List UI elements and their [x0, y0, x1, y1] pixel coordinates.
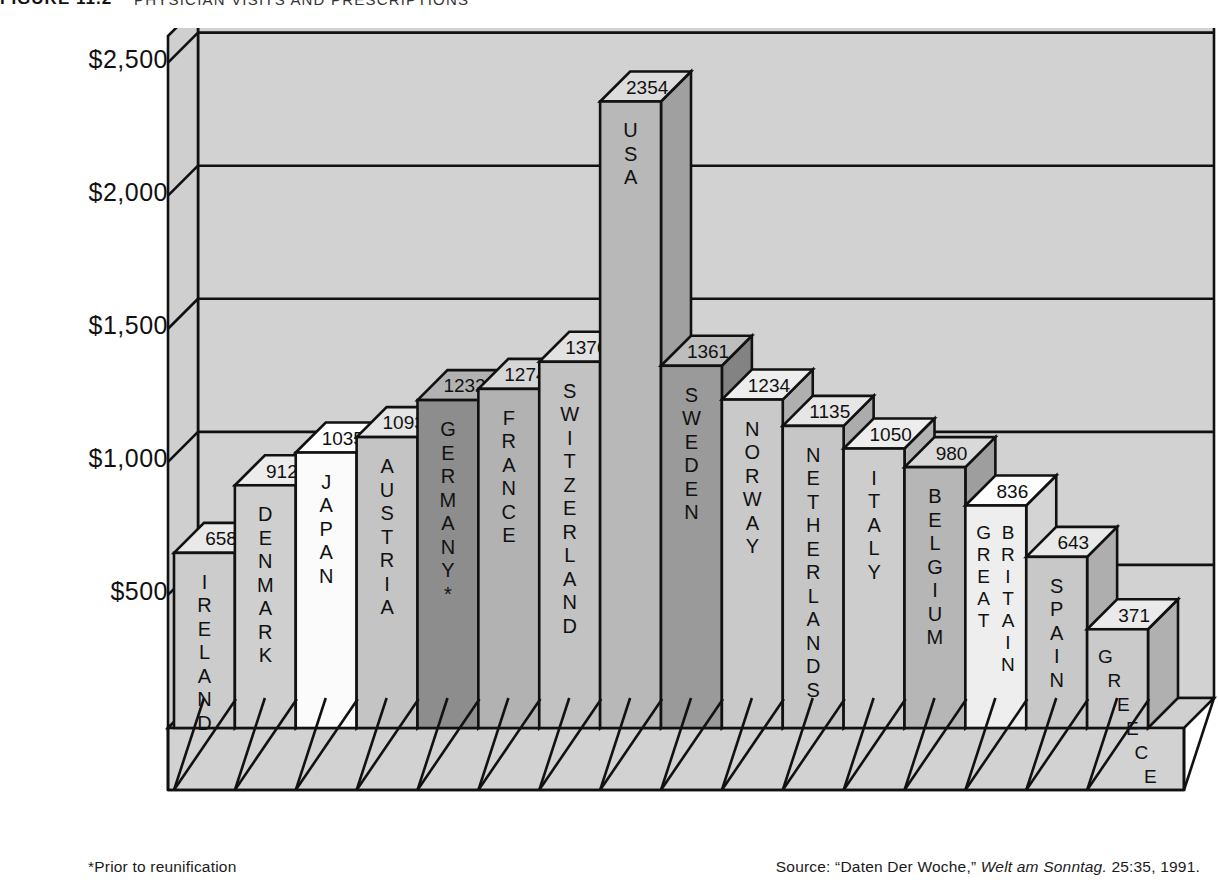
bar-category-letter: N: [1001, 654, 1015, 675]
bar-category-letter: P: [320, 518, 333, 540]
bar-category-letter: A: [1050, 622, 1064, 644]
bar-category-letter: A: [977, 588, 990, 609]
bar-category-letter: A: [1002, 610, 1015, 631]
bar-value-label: 836: [997, 481, 1029, 502]
bar-category-letter: E: [1144, 766, 1157, 787]
bar-category-letter: E: [441, 442, 454, 464]
page-title: PHYSICIAN VISITS AND PRESCRIPTIONS: [134, 0, 469, 8]
bar-category-letter: *: [444, 583, 452, 605]
bar-category-letter: R: [745, 465, 759, 487]
bar-category-letter: J: [321, 471, 331, 493]
bar-category-letter: D: [806, 655, 820, 677]
bar-category-letter: W: [682, 407, 701, 429]
bar-category-letter: E: [685, 431, 698, 453]
bar-category-letter: A: [807, 608, 821, 630]
bar-category-letter: B: [1002, 522, 1015, 543]
bar-category-letter: A: [198, 665, 212, 687]
bar-category-letter: E: [259, 527, 272, 549]
bar-category-letter: B: [928, 485, 941, 507]
y-axis-tick-1000: $1,000: [18, 444, 168, 473]
bar-category-letter: S: [1050, 575, 1063, 597]
bar-category-letter: T: [381, 526, 393, 548]
source-suffix: 25:35, 1991.: [1107, 858, 1200, 875]
bar-value-label: 912: [266, 461, 298, 482]
bar-category-letter: Z: [564, 474, 576, 496]
y-axis-tick-500: $500: [18, 577, 168, 606]
bar-chart: 658IRELAND912DENMARK1035JAPAN1093AUSTRIA…: [150, 28, 1218, 818]
bar-category-letter: E: [807, 538, 820, 560]
bar-front-face: [965, 505, 1026, 728]
bar-category-letter: A: [259, 597, 273, 619]
bar-category-letter: N: [684, 501, 698, 523]
bar-category-letter: U: [623, 119, 637, 141]
bar-value-label: 1135: [809, 401, 850, 422]
bar-category-letter: L: [564, 544, 575, 566]
bar-category-letter: R: [441, 465, 455, 487]
bar-value-label: 980: [936, 443, 968, 464]
figure-page: FIGURE 11.2 PHYSICIAN VISITS AND PRESCRI…: [0, 0, 1218, 882]
bar-category-letter: R: [806, 561, 820, 583]
bar-category-letter: R: [1108, 670, 1122, 691]
bar-category-letter: T: [564, 450, 576, 472]
bar-category-letter: C: [502, 501, 516, 523]
bar-category-letter: A: [320, 541, 334, 563]
bar-category-letter: L: [929, 532, 940, 554]
bar-category-letter: N: [562, 591, 576, 613]
bar-category-letter: Y: [867, 561, 880, 583]
bar-category-letter: R: [380, 549, 394, 571]
y-axis-tick-2500: $2,500: [18, 45, 168, 74]
chart-plot-area: 658IRELAND912DENMARK1035JAPAN1093AUSTRIA…: [150, 28, 1218, 818]
bar-category-letter: Y: [746, 535, 759, 557]
bar-value-label: 1050: [870, 424, 912, 445]
source-citation: Source: “Daten Der Woche,” Welt am Sonnt…: [776, 858, 1200, 876]
bar-category-letter: N: [806, 632, 820, 654]
bar-category-letter: N: [441, 536, 455, 558]
bar-category-letter: I: [567, 427, 573, 449]
bar-category-letter: H: [806, 514, 820, 536]
bar-value-label: 658: [205, 528, 237, 549]
bar-category-letter: O: [745, 441, 761, 463]
bar-category-letter: I: [1054, 645, 1060, 667]
bar-category-letter: L: [869, 537, 880, 559]
bar-category-letter: R: [1001, 544, 1015, 565]
bar-category-letter: T: [807, 491, 819, 513]
bar-category-letter: Y: [441, 559, 454, 581]
bar-category-letter: A: [746, 512, 760, 534]
bar-category-letter: I: [202, 571, 208, 593]
bar-category-letter: R: [977, 544, 991, 565]
bar-category-letter: M: [927, 626, 944, 648]
bar-category-letter: A: [380, 455, 394, 477]
bar-value-label: 371: [1118, 605, 1150, 626]
bar-category-letter: G: [927, 556, 943, 578]
bar-category-letter: I: [384, 573, 390, 595]
bar-category-letter: E: [1117, 694, 1130, 715]
bar-value-label: 1361: [687, 341, 729, 362]
bar-category-letter: A: [502, 454, 516, 476]
y-axis-tick-1500: $1,500: [18, 311, 168, 340]
bar-category-letter: D: [684, 454, 698, 476]
bar-category-letter: I: [1005, 632, 1010, 653]
bar-category-letter: E: [807, 467, 820, 489]
bar-category-letter: U: [380, 479, 394, 501]
bar-value-label: 2354: [626, 77, 669, 98]
bar-category-letter: N: [1049, 669, 1063, 691]
bar-category-letter: S: [563, 380, 576, 402]
bar-category-letter: E: [928, 509, 941, 531]
y-axis-labels: $2,500$2,000$1,500$1,000$500: [0, 0, 168, 800]
bar-category-letter: N: [258, 550, 272, 572]
bar-category-letter: M: [257, 574, 274, 596]
bar-category-letter: T: [1002, 588, 1014, 609]
figure-title-bar: FIGURE 11.2 PHYSICIAN VISITS AND PRESCRI…: [0, 0, 1218, 10]
bar-category-letter: G: [440, 418, 456, 440]
bar-category-letter: I: [932, 579, 938, 601]
bar-category-letter: A: [624, 166, 638, 188]
bar-category-letter: R: [197, 594, 211, 616]
bar-category-letter: A: [563, 568, 577, 590]
bar-category-letter: W: [743, 488, 762, 510]
bar-category-letter: S: [624, 143, 637, 165]
bar-category-letter: G: [1098, 646, 1113, 667]
bar-category-letter: N: [319, 565, 333, 587]
bar-category-letter: F: [503, 407, 515, 429]
bar-category-letter: D: [258, 503, 272, 525]
bar-category-letter: P: [1050, 598, 1063, 620]
